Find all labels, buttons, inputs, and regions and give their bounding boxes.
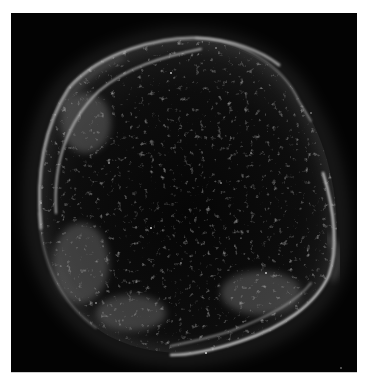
remnant-shell bbox=[11, 13, 357, 372]
astronomical-image bbox=[11, 13, 357, 372]
frame-bottom-edge bbox=[11, 372, 357, 373]
